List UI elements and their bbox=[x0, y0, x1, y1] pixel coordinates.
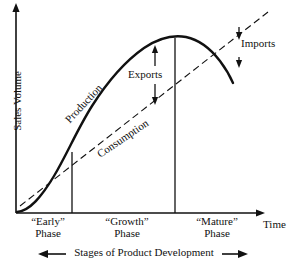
exports-label: Exports bbox=[128, 69, 162, 81]
chart-caption: Stages of Product Development bbox=[44, 247, 244, 259]
phase-label-growth: “Growth” Phase bbox=[92, 216, 162, 240]
consumption-line bbox=[20, 12, 268, 206]
phase-label-mature: “Mature” Phase bbox=[182, 216, 252, 240]
imports-label: Imports bbox=[241, 38, 275, 50]
phase-early-word: Phase bbox=[20, 228, 76, 240]
phase-growth-word: Phase bbox=[92, 228, 162, 240]
x-axis-arrowhead bbox=[256, 209, 265, 216]
phase-mature-word: Phase bbox=[182, 228, 252, 240]
y-axis-label: Sales Volume bbox=[12, 56, 24, 146]
x-axis-label: Time bbox=[263, 219, 286, 231]
product-life-cycle-chart: Sales Volume Time Production Consumption… bbox=[0, 0, 288, 266]
phase-label-early: “Early” Phase bbox=[20, 216, 76, 240]
y-axis-arrowhead bbox=[12, 3, 19, 12]
